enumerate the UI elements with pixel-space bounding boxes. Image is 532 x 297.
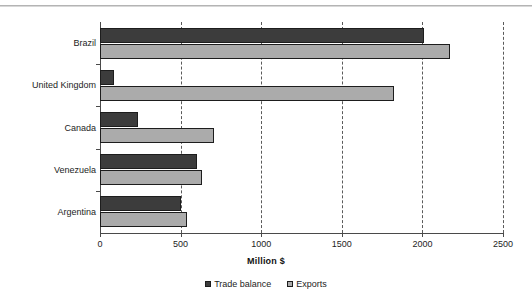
category-label-united-kingdom: United Kingdom — [4, 80, 96, 90]
chart-legend: Trade balance Exports — [0, 279, 532, 289]
horizontal-bar-chart: 05001000150020002500 BrazilUnited Kingdo… — [0, 0, 532, 297]
x-tick-label-1500: 1500 — [332, 239, 352, 250]
plot-area — [100, 22, 503, 233]
bar-united-kingdom-exports — [100, 86, 394, 101]
x-tick-label-1000: 1000 — [251, 239, 271, 250]
bar-venezuela-exports — [100, 170, 202, 185]
x-tick-2000 — [422, 233, 423, 237]
bar-united-kingdom-trade-balance — [100, 70, 114, 85]
bar-venezuela-trade-balance — [100, 154, 197, 169]
x-axis-line — [100, 233, 504, 234]
bar-brazil-exports — [100, 44, 450, 59]
legend-swatch-icon-trade-balance — [205, 281, 211, 287]
legend-label-exports: Exports — [296, 279, 327, 289]
x-tick-label-2500: 2500 — [493, 239, 513, 250]
category-label-brazil: Brazil — [4, 38, 96, 48]
x-tick-label-2000: 2000 — [412, 239, 432, 250]
bar-canada-exports — [100, 128, 214, 143]
bar-argentina-trade-balance — [100, 196, 181, 211]
y-axis-category-labels: BrazilUnited KingdomCanadaVenezuelaArgen… — [0, 0, 96, 297]
category-label-canada: Canada — [4, 123, 96, 133]
category-label-venezuela: Venezuela — [4, 165, 96, 175]
gridline-2500 — [503, 22, 504, 233]
legend-item-trade-balance: Trade balance — [205, 279, 271, 289]
bar-canada-trade-balance — [100, 112, 138, 127]
legend-item-exports: Exports — [287, 279, 327, 289]
chart-screenshot: 05001000150020002500 BrazilUnited Kingdo… — [0, 0, 532, 297]
x-tick-label-0: 0 — [97, 239, 102, 250]
x-axis-title: Million $ — [0, 256, 532, 266]
bar-brazil-trade-balance — [100, 28, 424, 43]
x-tick-0 — [100, 233, 101, 237]
legend-swatch-icon-exports — [287, 281, 293, 287]
x-tick-1500 — [342, 233, 343, 237]
bar-argentina-exports — [100, 212, 187, 227]
x-tick-2500 — [503, 233, 504, 237]
x-tick-1000 — [261, 233, 262, 237]
x-tick-label-500: 500 — [173, 239, 188, 250]
x-tick-500 — [181, 233, 182, 237]
legend-label-trade-balance: Trade balance — [214, 279, 271, 289]
category-label-argentina: Argentina — [4, 207, 96, 217]
